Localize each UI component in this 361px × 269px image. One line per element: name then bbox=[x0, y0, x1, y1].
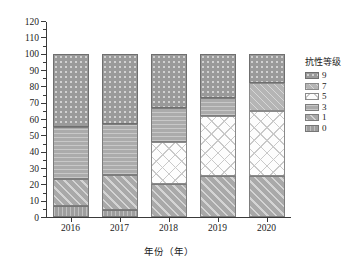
y-tick-minor bbox=[43, 209, 46, 210]
legend-label-7: 7 bbox=[322, 82, 327, 91]
bar-segment-grade-5 bbox=[249, 111, 285, 176]
y-tick-label: 110 bbox=[25, 34, 39, 44]
bar-segment-grade-3 bbox=[53, 127, 89, 179]
legend-title: 抗性等级 bbox=[305, 55, 359, 68]
bar-segment-grade-0 bbox=[53, 206, 89, 217]
x-tick-label: 2020 bbox=[257, 224, 276, 234]
y-tick-minor bbox=[43, 127, 46, 128]
x-tick-label: 2018 bbox=[159, 224, 178, 234]
legend-label-1: 1 bbox=[322, 113, 327, 122]
y-tick-label: 70 bbox=[30, 99, 40, 109]
legend-label-9: 9 bbox=[322, 71, 327, 80]
plot-area: 0102030405060708090100110120 20162017201… bbox=[46, 22, 291, 218]
bar-segment-grade-3 bbox=[102, 124, 138, 175]
bar-segment-grade-1 bbox=[200, 176, 236, 217]
bar-segment-grade-9 bbox=[53, 54, 89, 128]
legend-item-5: 5 bbox=[305, 92, 359, 101]
y-tick-major bbox=[41, 184, 46, 185]
x-tick-label: 2019 bbox=[208, 224, 227, 234]
legend-label-5: 5 bbox=[322, 92, 327, 101]
legend-swatch-3 bbox=[305, 104, 319, 111]
y-tick-label: 100 bbox=[25, 50, 39, 60]
x-tick-label: 2017 bbox=[110, 224, 129, 234]
bar-segment-grade-1 bbox=[151, 184, 187, 217]
chart-root: 区试品种稻瘟病抗性统计（%） 0102030405060708090100110… bbox=[0, 0, 361, 269]
x-tick bbox=[267, 218, 268, 222]
x-tick bbox=[218, 218, 219, 222]
y-tick-label: 10 bbox=[30, 197, 40, 207]
y-tick-label: 40 bbox=[30, 148, 40, 158]
y-tick-minor bbox=[43, 144, 46, 145]
y-tick-label: 0 bbox=[34, 213, 39, 223]
y-tick-label: 80 bbox=[30, 83, 40, 93]
bar-segment-grade-1 bbox=[53, 179, 89, 205]
bar-segment-grade-9 bbox=[102, 54, 138, 124]
y-tick-major bbox=[41, 152, 46, 153]
y-tick-major bbox=[41, 70, 46, 71]
x-tick bbox=[120, 218, 121, 222]
y-tick-major bbox=[41, 21, 46, 22]
bar-segment-grade-9 bbox=[249, 54, 285, 83]
y-tick-minor bbox=[43, 78, 46, 79]
bar-segment-grade-3 bbox=[200, 98, 236, 116]
x-tick bbox=[71, 218, 72, 222]
legend-swatch-1 bbox=[305, 114, 319, 121]
y-tick-major bbox=[41, 217, 46, 218]
legend-item-3: 3 bbox=[305, 103, 359, 112]
y-tick-major bbox=[41, 37, 46, 38]
bar-2016 bbox=[53, 54, 89, 217]
y-tick-major bbox=[41, 54, 46, 55]
bar-2017 bbox=[102, 54, 138, 217]
x-tick-label: 2016 bbox=[61, 224, 80, 234]
y-tick-label: 90 bbox=[30, 66, 40, 76]
bar-segment-grade-3 bbox=[151, 108, 187, 142]
legend-item-1: 1 bbox=[305, 113, 359, 122]
bar-segment-grade-1 bbox=[249, 176, 285, 217]
y-tick-minor bbox=[43, 95, 46, 96]
x-axis-title: 年份（年） bbox=[46, 244, 291, 258]
legend-item-9: 9 bbox=[305, 71, 359, 80]
y-axis-line bbox=[46, 22, 47, 218]
y-tick-label: 30 bbox=[30, 164, 40, 174]
bar-segment-grade-7 bbox=[249, 83, 285, 111]
legend-swatch-0 bbox=[305, 125, 319, 132]
y-tick-major bbox=[41, 86, 46, 87]
y-tick-minor bbox=[43, 193, 46, 194]
legend-label-3: 3 bbox=[322, 103, 327, 112]
bar-2019 bbox=[200, 54, 236, 217]
y-tick-major bbox=[41, 103, 46, 104]
y-tick-major bbox=[41, 168, 46, 169]
legend-item-7: 7 bbox=[305, 82, 359, 91]
y-tick-minor bbox=[43, 176, 46, 177]
y-tick-minor bbox=[43, 29, 46, 30]
legend-swatch-5 bbox=[305, 93, 319, 100]
y-tick-label: 60 bbox=[30, 115, 40, 125]
y-tick-label: 120 bbox=[25, 17, 39, 27]
x-tick bbox=[169, 218, 170, 222]
y-tick-minor bbox=[43, 46, 46, 47]
y-tick-major bbox=[41, 119, 46, 120]
bar-segment-grade-0 bbox=[102, 210, 138, 217]
legend-swatch-7 bbox=[305, 83, 319, 90]
legend-label-0: 0 bbox=[322, 124, 327, 133]
legend: 抗性等级 975310 bbox=[305, 55, 359, 134]
bar-segment-grade-5 bbox=[151, 142, 187, 184]
legend-items: 975310 bbox=[305, 71, 359, 133]
bar-segment-grade-9 bbox=[151, 54, 187, 108]
bar-2020 bbox=[249, 54, 285, 217]
y-tick-label: 50 bbox=[30, 132, 40, 142]
bar-segment-grade-1 bbox=[102, 175, 138, 211]
bar-2018 bbox=[151, 54, 187, 217]
y-tick-label: 20 bbox=[30, 181, 40, 191]
bar-segment-grade-9 bbox=[200, 54, 236, 98]
y-tick-minor bbox=[43, 62, 46, 63]
legend-item-0: 0 bbox=[305, 124, 359, 133]
y-tick-minor bbox=[43, 111, 46, 112]
legend-swatch-9 bbox=[305, 72, 319, 79]
bar-segment-grade-5 bbox=[200, 116, 236, 176]
y-tick-major bbox=[41, 201, 46, 202]
y-tick-major bbox=[41, 135, 46, 136]
y-tick-minor bbox=[43, 160, 46, 161]
